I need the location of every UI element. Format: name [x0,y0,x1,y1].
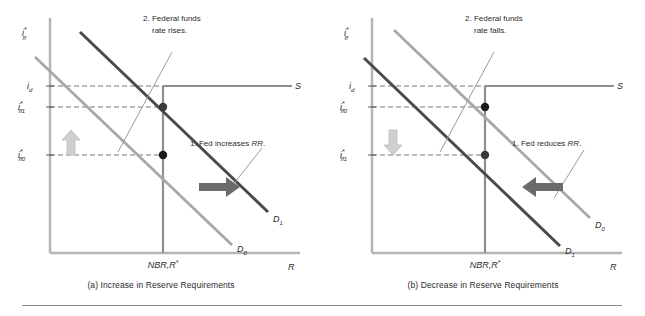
annotation-step1: 1. Fed reduces RR. [512,139,581,148]
x-tick-label: NBR,R* [148,259,179,270]
y-tick-sub-d: d [351,87,355,93]
ff1-sub: ff1 [341,156,348,162]
ff0-sup: * [342,100,345,107]
demand-curve-1-label: D1 [565,246,575,258]
d0-sub: 0 [602,226,606,232]
panel-b-chart: i*ff id i*ff0 i*ff1 NBR,R* R S D0 D1 2. … [322,0,644,300]
rate-down-arrow-icon [384,130,402,155]
annotation-step2-line1: 2. Federal funds [143,14,201,23]
y-tick-label-ff1: i*ff1 [18,100,25,114]
ff0-sup: * [20,148,23,155]
ff0-sub: ff0 [19,156,26,162]
y-tick-label-discount-rate: id [27,81,33,93]
y-axis-title-sup: * [24,26,27,33]
panel-increase-reserve-requirements: i*ff id i*ff1 i*ff0 NBR,R* R S D0 D1 2. … [0,0,322,300]
leader-line-step1 [232,148,262,186]
annotation-step2-line1: 2. Federal funds [465,14,523,23]
y-tick-label-ff0: i*ff0 [18,148,26,162]
y-axis-title-sub: ff [23,35,28,41]
ff1-sub: ff1 [19,108,26,114]
supply-curve-label: S [617,81,623,91]
demand-curve-1 [80,32,268,212]
panel-a-caption: (a) Increase in Reserve Requirements [0,280,322,290]
y-tick-sub-d: d [29,87,33,93]
y-tick-label-discount-rate: id [349,81,355,93]
y-tick-label-ff1: i*ff1 [340,148,347,162]
panel-decrease-reserve-requirements: i*ff id i*ff0 i*ff1 NBR,R* R S D0 D1 2. … [322,0,644,300]
x-axis-title: R [610,262,617,272]
panel-b-caption: (b) Decrease in Reserve Requirements [322,280,644,290]
supply-curve-label: S [295,81,301,91]
annotation-step2-line2: rate falls. [474,26,506,35]
demand-curve-0-label: D0 [595,220,606,232]
reserve-requirements-figure: i*ff id i*ff1 i*ff0 NBR,R* R S D0 D1 2. … [0,0,645,316]
y-axis-title-sup: * [346,26,349,33]
equilibrium-point-initial [159,151,167,159]
ff1-sup: * [342,148,345,155]
d1-sub: 1 [572,252,575,258]
x-axis-title: R [288,262,295,272]
annotation-step1: 1. Fed increases RR. [190,139,265,148]
panel-a-chart: i*ff id i*ff1 i*ff0 NBR,R* R S D0 D1 2. … [0,0,322,300]
ff0-sub: ff0 [341,108,348,114]
rate-up-arrow-icon [62,130,80,155]
demand-curve-1-label: D1 [273,214,283,226]
bottom-divider [22,305,622,306]
d1-sub: 1 [280,220,283,226]
annotation-step1-italic: RR [251,139,263,148]
y-axis-title: i*ff [344,26,349,41]
y-tick-label-ff0: i*ff0 [340,100,348,114]
annotation-step1-italic: RR [568,139,580,148]
ff1-sup: * [20,100,23,107]
y-axis-title: i*ff [22,26,27,41]
annotation-step2-line2: rate rises. [152,26,187,35]
x-tick-label: NBR,R* [470,259,501,270]
equilibrium-point-initial [481,103,489,111]
y-axis-title-sub: ff [345,35,350,41]
equilibrium-point-new [481,151,489,159]
equilibrium-point-new [159,103,167,111]
